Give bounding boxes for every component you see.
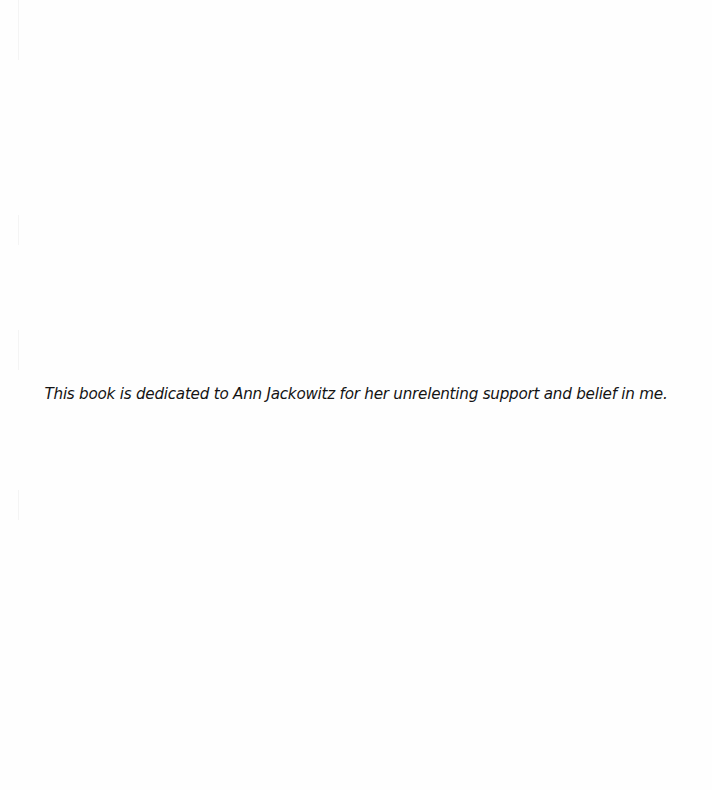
scan-artifact [18, 330, 19, 370]
dedication-text: This book is dedicated to Ann Jackowitz … [0, 381, 712, 407]
dedication-page: This book is dedicated to Ann Jackowitz … [0, 0, 712, 790]
scan-artifact [18, 215, 19, 245]
scan-artifact [18, 490, 19, 520]
scan-artifact [18, 0, 19, 60]
